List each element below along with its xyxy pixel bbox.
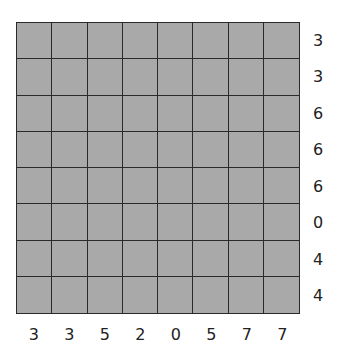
- grid-cell[interactable]: [17, 168, 52, 204]
- row-clue: 4: [304, 278, 332, 315]
- grid-cell[interactable]: [88, 277, 123, 313]
- grid-cell[interactable]: [229, 59, 264, 95]
- row-clue: 6: [304, 95, 332, 132]
- grid-cell[interactable]: [17, 132, 52, 168]
- grid-cell[interactable]: [193, 132, 228, 168]
- grid-cell[interactable]: [158, 59, 193, 95]
- column-clue: 7: [265, 318, 301, 350]
- grid-cell[interactable]: [88, 23, 123, 59]
- grid-cell[interactable]: [52, 132, 87, 168]
- grid-cell[interactable]: [193, 277, 228, 313]
- grid-cell[interactable]: [193, 23, 228, 59]
- grid-cell[interactable]: [229, 204, 264, 240]
- grid-cell[interactable]: [88, 168, 123, 204]
- grid-cell[interactable]: [264, 96, 299, 132]
- grid-cell[interactable]: [52, 59, 87, 95]
- grid-cell[interactable]: [229, 96, 264, 132]
- grid-cell[interactable]: [17, 96, 52, 132]
- grid-cell[interactable]: [123, 241, 158, 277]
- grid-cell[interactable]: [52, 23, 87, 59]
- grid-cell[interactable]: [193, 59, 228, 95]
- grid-cell[interactable]: [52, 96, 87, 132]
- grid-cell[interactable]: [229, 241, 264, 277]
- row-clue: 3: [304, 59, 332, 96]
- row-clue: 4: [304, 241, 332, 278]
- grid-cell[interactable]: [158, 132, 193, 168]
- column-clue: 5: [87, 318, 123, 350]
- grid-cell[interactable]: [123, 204, 158, 240]
- column-clue: 5: [194, 318, 230, 350]
- grid-cell[interactable]: [123, 168, 158, 204]
- grid-cell[interactable]: [264, 132, 299, 168]
- row-clues: 33666044: [304, 22, 332, 314]
- grid-cell[interactable]: [88, 59, 123, 95]
- row-clue: 0: [304, 205, 332, 242]
- grid-cell[interactable]: [193, 168, 228, 204]
- grid-cell[interactable]: [123, 23, 158, 59]
- grid-cell[interactable]: [52, 204, 87, 240]
- grid-cell[interactable]: [123, 277, 158, 313]
- column-clue: 3: [16, 318, 52, 350]
- grid-cell[interactable]: [17, 59, 52, 95]
- grid-cell[interactable]: [123, 96, 158, 132]
- grid-cell[interactable]: [17, 204, 52, 240]
- grid-cell[interactable]: [193, 96, 228, 132]
- grid-cell[interactable]: [88, 132, 123, 168]
- grid-cell[interactable]: [264, 59, 299, 95]
- grid-cell[interactable]: [158, 241, 193, 277]
- grid-cell[interactable]: [229, 23, 264, 59]
- grid-cell[interactable]: [264, 277, 299, 313]
- column-clue: 3: [52, 318, 88, 350]
- column-clue: 7: [229, 318, 265, 350]
- grid-cell[interactable]: [88, 96, 123, 132]
- grid-cell[interactable]: [123, 59, 158, 95]
- grid-cell[interactable]: [264, 168, 299, 204]
- grid-cell[interactable]: [52, 168, 87, 204]
- grid-cell[interactable]: [229, 277, 264, 313]
- grid-cell[interactable]: [52, 241, 87, 277]
- grid-cell[interactable]: [52, 277, 87, 313]
- column-clue: 0: [158, 318, 194, 350]
- grid-cell[interactable]: [193, 241, 228, 277]
- grid-cell[interactable]: [158, 23, 193, 59]
- row-clue: 3: [304, 22, 332, 59]
- column-clue: 2: [123, 318, 159, 350]
- grid-cell[interactable]: [17, 277, 52, 313]
- grid-cell[interactable]: [17, 23, 52, 59]
- column-clues: 33520577: [16, 318, 300, 350]
- grid-cell[interactable]: [123, 132, 158, 168]
- grid-cell[interactable]: [193, 204, 228, 240]
- grid-cell[interactable]: [158, 204, 193, 240]
- grid-cell[interactable]: [158, 96, 193, 132]
- row-clue: 6: [304, 168, 332, 205]
- grid-cell[interactable]: [229, 132, 264, 168]
- grid-cell[interactable]: [158, 168, 193, 204]
- grid-cell[interactable]: [264, 23, 299, 59]
- grid-cell[interactable]: [229, 168, 264, 204]
- grid-cell[interactable]: [264, 241, 299, 277]
- grid-cell[interactable]: [88, 241, 123, 277]
- grid-cell[interactable]: [264, 204, 299, 240]
- grid-cell[interactable]: [17, 241, 52, 277]
- row-clue: 6: [304, 132, 332, 169]
- grid-cell[interactable]: [88, 204, 123, 240]
- grid-cell[interactable]: [158, 277, 193, 313]
- puzzle-grid: [16, 22, 300, 314]
